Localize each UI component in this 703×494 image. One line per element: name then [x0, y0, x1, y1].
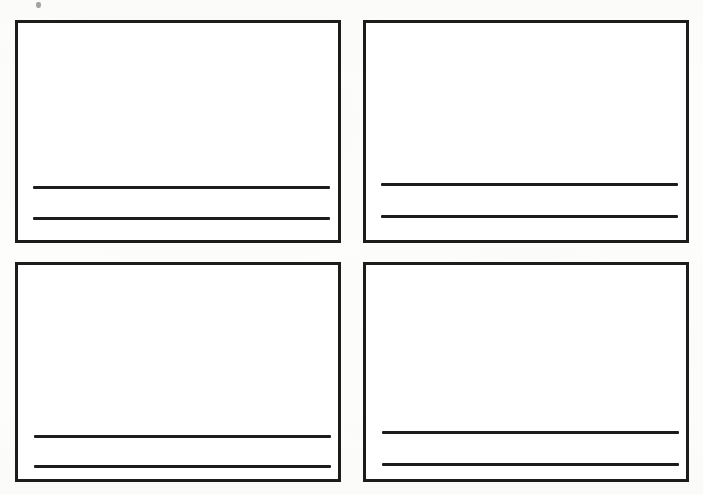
frame-top-right-rule-2 [381, 215, 678, 218]
frame-bottom-right-rule-2 [382, 463, 679, 466]
frame-bottom-left-rule-2 [34, 465, 331, 468]
toner-speck-artifact [36, 2, 41, 8]
frame-bottom-right[interactable] [363, 262, 689, 482]
frame-top-right[interactable] [363, 20, 689, 243]
frame-top-right-rule-1 [381, 183, 678, 186]
frame-bottom-right-rule-1 [382, 431, 679, 434]
scanned-page [0, 0, 703, 494]
frame-top-left-rule-2 [33, 217, 330, 220]
frame-top-left[interactable] [15, 20, 341, 243]
frame-top-left-rule-1 [33, 186, 330, 189]
frame-bottom-left[interactable] [15, 262, 341, 482]
frame-bottom-left-rule-1 [34, 435, 331, 438]
